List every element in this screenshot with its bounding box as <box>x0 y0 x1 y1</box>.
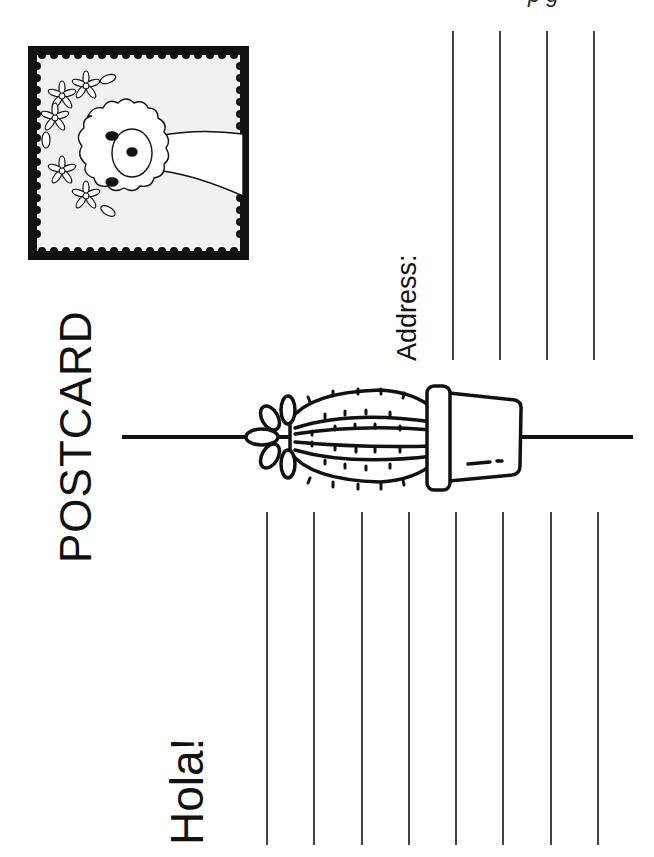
message-line-7[interactable] <box>550 512 552 845</box>
flower-pot <box>427 386 521 490</box>
stamp <box>28 46 249 260</box>
cactus-flower <box>246 396 295 478</box>
address-line-4[interactable] <box>593 31 595 360</box>
message-line-5[interactable] <box>455 512 457 845</box>
greeting-text: Hola! <box>164 738 210 845</box>
address-line-2[interactable] <box>499 31 501 360</box>
cactus-illustration <box>240 380 530 500</box>
top-text-fragment: p g <box>528 0 559 8</box>
message-line-3[interactable] <box>361 512 363 845</box>
postcard-title: POSTCARD <box>54 311 98 563</box>
message-line-2[interactable] <box>313 512 315 845</box>
message-line-1[interactable] <box>266 512 268 845</box>
address-label: Address: <box>394 254 421 361</box>
address-line-3[interactable] <box>546 31 548 360</box>
message-line-4[interactable] <box>408 512 410 845</box>
message-line-6[interactable] <box>502 512 504 845</box>
message-line-8[interactable] <box>597 512 599 845</box>
address-line-1[interactable] <box>452 31 454 360</box>
